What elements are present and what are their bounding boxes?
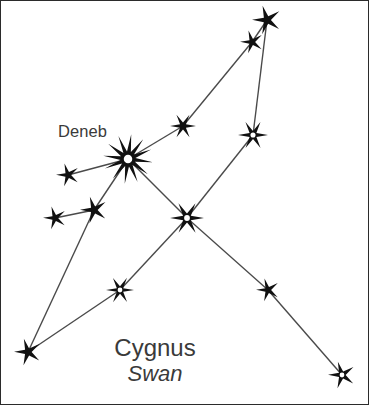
star-glyph <box>170 115 196 138</box>
deneb-label: Deneb <box>58 122 107 140</box>
upper-wing-star <box>240 31 262 54</box>
right-wing-hollow-star <box>238 122 268 148</box>
star-glyph <box>56 164 78 187</box>
star-core-highlight <box>124 155 133 164</box>
star-glyph <box>80 197 105 224</box>
constellation-figure: Deneb Cygnus Swan <box>0 0 370 406</box>
star-core-highlight <box>250 132 255 137</box>
left-outer-star <box>56 164 78 187</box>
constellation-common-name: Swan <box>0 361 310 386</box>
constellation-line <box>183 42 252 126</box>
lower-mid-hollow-star <box>106 278 134 302</box>
star-core-highlight <box>184 215 190 221</box>
constellation-line <box>187 135 253 218</box>
constellation-line <box>120 218 187 290</box>
constellation-lines <box>28 20 342 375</box>
albireo-bottom-star <box>328 362 353 389</box>
mid-wing-star <box>170 115 196 138</box>
left-lower-star <box>80 197 105 224</box>
constellation-line <box>28 210 94 352</box>
star-glyph <box>43 207 65 230</box>
constellation-line <box>128 159 187 218</box>
constellation-line <box>187 218 268 290</box>
constellation-stars <box>14 6 353 389</box>
star-core-highlight <box>340 373 345 378</box>
constellation-title: Cygnus Swan <box>0 334 310 386</box>
star-core-highlight <box>118 288 123 293</box>
constellation-name: Cygnus <box>0 334 310 361</box>
star-glyph <box>240 31 262 54</box>
far-left-star <box>43 207 65 230</box>
